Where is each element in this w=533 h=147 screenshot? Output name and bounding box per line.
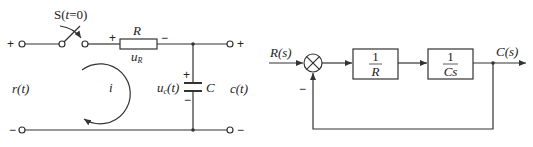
output-minus-sign: − — [237, 123, 244, 137]
junction-node — [191, 128, 195, 132]
input-label: R(s) — [269, 45, 292, 60]
output-terminal-top — [227, 41, 233, 47]
input-terminal-bottom — [19, 127, 25, 133]
switch-contact-right — [82, 41, 88, 47]
capacitor-voltage-label: uc(t) — [157, 80, 179, 96]
input-plus-sign: + — [7, 37, 14, 51]
input-terminal-top — [19, 41, 25, 47]
resistor — [120, 39, 157, 49]
output-signal-label: c(t) — [230, 81, 248, 96]
capacitor-label: C — [206, 80, 215, 95]
block-2-denominator: Cs — [444, 64, 458, 79]
resistor-label: R — [132, 23, 141, 38]
block-1-numerator: 1 — [372, 49, 379, 64]
output-label: C(s) — [496, 44, 518, 59]
rc-circuit: + S(t=0) + R − uR + + − C — [7, 7, 248, 137]
block-2-numerator: 1 — [447, 49, 454, 64]
resistor-voltage-label: uR — [131, 49, 143, 65]
block-1-denominator: R — [371, 64, 380, 79]
input-minus-sign: − — [9, 123, 16, 137]
summing-junction — [304, 54, 322, 72]
resistor-minus-sign: − — [161, 31, 168, 45]
block-2-over-Cs: 1 Cs — [428, 49, 473, 79]
switch: S(t=0) — [54, 7, 88, 47]
diagram-canvas: + S(t=0) + R − uR + + − C — [0, 0, 533, 147]
resistor-plus-sign: + — [109, 31, 116, 45]
current-label: i — [109, 80, 113, 95]
switch-label: S(t=0) — [54, 7, 87, 22]
block-1-over-R: 1 R — [353, 49, 398, 79]
capacitor-plus-sign: + — [183, 68, 190, 82]
block-diagram: R(s) − 1 R 1 Cs C(s) — [269, 44, 526, 129]
input-signal-label: r(t) — [12, 81, 29, 96]
loop-current-arrow-icon — [82, 64, 130, 124]
capacitor-minus-sign: − — [184, 93, 191, 107]
output-plus-sign: + — [237, 37, 244, 51]
output-terminal-bottom — [227, 127, 233, 133]
feedback-sign: − — [299, 82, 306, 96]
